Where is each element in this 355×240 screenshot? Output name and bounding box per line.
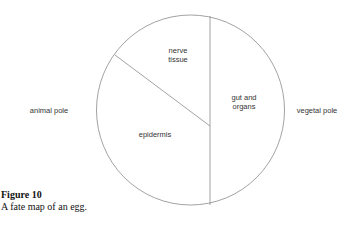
animal-pole-label: animal pole xyxy=(20,106,78,115)
divider-diagonal xyxy=(115,55,210,126)
region-label-gut-and-organs: gut and organs xyxy=(224,93,264,111)
vegetal-pole-label: vegetal pole xyxy=(287,106,347,115)
nerve-label-line1: nerve xyxy=(158,46,198,55)
nerve-label-line2: tissue xyxy=(158,55,198,64)
gut-label-line2: organs xyxy=(224,102,264,111)
figure-number: Figure 10 xyxy=(1,189,42,200)
gut-label-line1: gut and xyxy=(224,93,264,102)
epidermis-label: epidermis xyxy=(130,130,180,139)
region-label-nerve-tissue: nerve tissue xyxy=(158,46,198,64)
figure-caption: A fate map of an egg. xyxy=(1,201,87,212)
region-label-epidermis: epidermis xyxy=(130,130,180,139)
